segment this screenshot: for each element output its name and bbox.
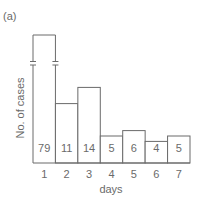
bar-group-day-2: 11 [55, 104, 77, 163]
bar-group-day-3: 14 [78, 87, 100, 163]
panel-label: (a) [3, 10, 16, 22]
bar-chart: (a) No. of cases 7911145645 1234567 days [0, 0, 206, 211]
bar-group-day-6: 4 [145, 141, 167, 163]
bar-group-day-1: 79 [30, 35, 58, 163]
x-axis-label: days [99, 183, 123, 195]
x-tick-label: 1 [41, 168, 47, 180]
x-tick-label: 4 [108, 168, 114, 180]
data-label: 5 [176, 142, 182, 154]
data-label: 79 [38, 142, 50, 154]
data-label: 11 [61, 142, 72, 154]
bar-group-day-4: 5 [100, 136, 122, 163]
bar-group-day-7: 5 [168, 136, 190, 163]
y-axis-label: No. of cases [14, 77, 26, 139]
x-tick-label: 2 [64, 168, 70, 180]
x-tick-label: 3 [86, 168, 92, 180]
data-label: 4 [153, 142, 159, 154]
data-label: 14 [83, 142, 95, 154]
x-tick-label: 6 [153, 168, 159, 180]
x-tick-label: 7 [176, 168, 182, 180]
bar-group-day-5: 6 [123, 131, 145, 163]
data-label: 6 [131, 142, 137, 154]
data-label: 5 [108, 142, 114, 154]
x-tick-label: 5 [131, 168, 137, 180]
bar [55, 104, 77, 163]
